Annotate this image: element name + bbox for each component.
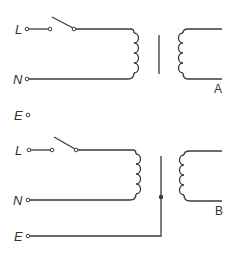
terminal-live-a — [25, 27, 29, 31]
circuit-b: L N E B — [13, 137, 223, 244]
wire-neutral-a — [28, 73, 134, 79]
circuit-label-a: A — [214, 82, 222, 96]
terminal-label-live-a: L — [15, 22, 22, 37]
wire-neutral-b — [29, 194, 136, 200]
transformer-earthing-diagram: L N A E L N E — [0, 0, 249, 257]
earth-wire-to-core-b — [30, 156, 161, 236]
terminal-earth-standalone — [26, 113, 30, 117]
switch-contact-a — [48, 27, 52, 31]
terminal-label-neutral-b: N — [13, 193, 23, 208]
standalone-earth: E — [14, 108, 30, 123]
secondary-bottom-lead-b — [184, 195, 222, 201]
circuit-a: L N A — [13, 17, 222, 96]
secondary-winding-a — [179, 33, 184, 73]
secondary-top-lead-a — [183, 29, 222, 33]
wire-live-to-primary-a — [76, 29, 134, 33]
circuit-label-b: B — [215, 204, 223, 218]
terminal-earth-b — [26, 234, 30, 238]
switch-pivot-b — [74, 148, 78, 152]
terminal-live-b — [27, 148, 31, 152]
terminal-label-earth-standalone: E — [14, 108, 23, 123]
terminal-label-neutral-a: N — [13, 72, 23, 87]
earth-junction-dot — [159, 195, 163, 199]
terminal-label-earth-b: E — [14, 229, 23, 244]
terminal-label-live-b: L — [15, 143, 22, 158]
secondary-winding-b — [180, 155, 185, 195]
secondary-top-lead-b — [184, 151, 222, 155]
terminal-neutral-b — [26, 198, 30, 202]
primary-winding-a — [134, 33, 139, 73]
switch-contact-b — [50, 148, 54, 152]
primary-winding-b — [136, 154, 141, 194]
switch-blade-a — [52, 17, 73, 28]
terminal-neutral-a — [25, 77, 29, 81]
secondary-bottom-lead-a — [183, 73, 222, 79]
switch-pivot-a — [72, 27, 76, 31]
switch-blade-b — [54, 137, 75, 149]
wire-live-to-primary-b — [78, 150, 136, 154]
